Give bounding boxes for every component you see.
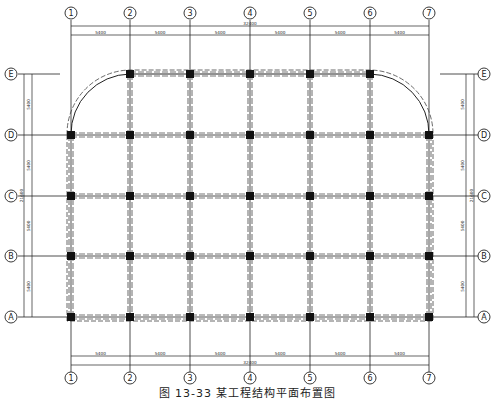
axis-bubble-right-E: E	[478, 68, 490, 80]
dim-text-bottom-span: 5400	[95, 351, 106, 356]
axis-bubble-left-A: A	[5, 311, 17, 323]
dim-text-right-span: 5400	[460, 160, 465, 171]
axis-bubble-left-E: E	[5, 68, 17, 80]
column	[186, 313, 194, 321]
axis-bubble-label: 3	[187, 374, 192, 383]
column	[67, 192, 75, 200]
column	[425, 313, 433, 321]
dim-text-top-span: 5400	[155, 30, 166, 35]
axis-bubble-label: D	[8, 131, 14, 140]
axis-bubble-bottom-4: 4	[244, 372, 256, 384]
column	[126, 70, 134, 78]
axis-bubble-label: 1	[68, 374, 73, 383]
axis-bubble-right-D: D	[478, 129, 490, 141]
axis-bubble-label: 5	[307, 374, 312, 383]
column	[306, 192, 314, 200]
column	[126, 131, 134, 139]
column	[306, 252, 314, 260]
axis-bubble-left-C: C	[5, 190, 17, 202]
axis-bubble-top-7: 7	[423, 7, 435, 19]
column	[306, 131, 314, 139]
dim-text-top-span: 5400	[95, 30, 106, 35]
column	[246, 192, 254, 200]
dim-text-left-total: 21600	[19, 189, 24, 203]
axis-bubble-top-5: 5	[304, 7, 316, 19]
axis-bubble-right-B: B	[478, 250, 490, 262]
dim-text-top-span: 5400	[335, 30, 346, 35]
dim-text-right-span: 5400	[460, 220, 465, 231]
axis-bubble-label: A	[8, 313, 14, 322]
column	[126, 252, 134, 260]
axis-bubble-left-B: B	[5, 250, 17, 262]
axis-bubble-label: B	[481, 252, 487, 261]
axis-bubble-bottom-5: 5	[304, 372, 316, 384]
column	[246, 252, 254, 260]
column	[67, 131, 75, 139]
dim-text-left-span: 5400	[26, 281, 31, 292]
column	[246, 313, 254, 321]
axis-bubble-bottom-7: 7	[423, 372, 435, 384]
axis-bubble-label: 3	[187, 9, 192, 18]
column	[186, 252, 194, 260]
axis-bubble-bottom-1: 1	[65, 372, 77, 384]
dim-text-bottom-span: 5400	[275, 351, 286, 356]
column	[306, 70, 314, 78]
dim-text-right-span: 5400	[460, 99, 465, 110]
axis-bubble-label: C	[481, 192, 487, 201]
axis-bubble-label: B	[8, 252, 14, 261]
column	[67, 252, 75, 260]
column	[366, 192, 374, 200]
axis-bubble-top-2: 2	[124, 7, 136, 19]
axis-bubble-label: 4	[247, 374, 252, 383]
axis-bubble-right-A: A	[478, 311, 490, 323]
column	[246, 70, 254, 78]
dim-text-bottom-span: 5400	[335, 351, 346, 356]
dim-text-bottom-span: 5400	[215, 351, 226, 356]
column	[306, 313, 314, 321]
axis-bubble-label: 7	[426, 374, 431, 383]
axis-bubble-label: 2	[127, 9, 132, 18]
axis-bubble-left-D: D	[5, 129, 17, 141]
dim-text-left-span: 5400	[26, 220, 31, 231]
dim-text-left-span: 5400	[26, 160, 31, 171]
column	[366, 252, 374, 260]
column	[366, 131, 374, 139]
axis-bubble-top-3: 3	[184, 7, 196, 19]
axis-bubble-label: 2	[127, 374, 132, 383]
figure-caption: 图 13-33 某工程结构平面布置图	[0, 384, 495, 400]
axis-bubble-label: E	[481, 70, 486, 79]
dim-text-top-span: 5400	[215, 30, 226, 35]
axis-bubble-bottom-3: 3	[184, 372, 196, 384]
dim-text-top-span: 5400	[275, 30, 286, 35]
column	[425, 192, 433, 200]
axis-bubble-label: 4	[247, 9, 252, 18]
dim-text-right-span: 5400	[460, 281, 465, 292]
axis-bubble-label: D	[481, 131, 487, 140]
column	[425, 252, 433, 260]
column	[186, 131, 194, 139]
dim-text-right-total: 21600	[469, 189, 474, 203]
column	[246, 131, 254, 139]
dim-text-bottom-span: 5400	[394, 351, 405, 356]
axis-bubble-bottom-2: 2	[124, 372, 136, 384]
axis-bubble-bottom-6: 6	[364, 372, 376, 384]
column	[186, 192, 194, 200]
column	[126, 192, 134, 200]
dim-text-top-span: 5400	[394, 30, 405, 35]
dim-text-left-span: 5400	[26, 99, 31, 110]
column	[67, 313, 75, 321]
column	[186, 70, 194, 78]
axis-bubble-label: 6	[367, 374, 372, 383]
axis-bubble-right-C: C	[478, 190, 490, 202]
column	[366, 70, 374, 78]
axis-bubble-top-1: 1	[65, 7, 77, 19]
axis-bubble-label: 1	[68, 9, 73, 18]
axis-bubble-label: 5	[307, 9, 312, 18]
axis-bubble-label: 7	[426, 9, 431, 18]
dim-text-bottom-total: 32400	[243, 360, 257, 365]
axis-bubble-label: A	[481, 313, 487, 322]
axis-bubble-label: E	[8, 70, 13, 79]
dim-text-bottom-span: 5400	[155, 351, 166, 356]
axis-bubble-label: 6	[367, 9, 372, 18]
